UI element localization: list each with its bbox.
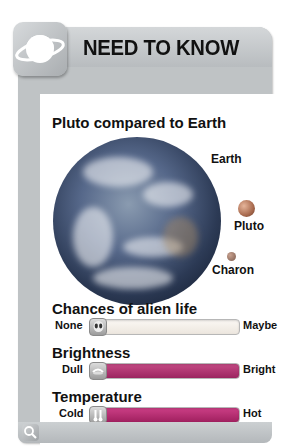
meter-max-label: Bright xyxy=(243,363,275,375)
content-panel: Pluto compared to Earth Earth Pluto Char… xyxy=(40,94,283,447)
charon-label: Charon xyxy=(212,263,254,277)
pluto-image xyxy=(238,200,255,217)
magnifier-icon[interactable] xyxy=(22,424,39,441)
meter-min-label: None xyxy=(55,319,83,331)
meter-max-label: Maybe xyxy=(243,319,277,331)
meter-min-label: Cold xyxy=(59,407,83,419)
earth-image xyxy=(53,137,221,305)
alien-icon xyxy=(89,318,107,336)
meter-title-temperature: Temperature xyxy=(52,388,142,405)
pluto-label: Pluto xyxy=(234,219,264,233)
meter-title-brightness: Brightness xyxy=(52,344,130,361)
earth-label: Earth xyxy=(211,152,242,166)
alien-life-meter xyxy=(89,319,240,335)
charon-image xyxy=(227,252,236,261)
planet-ringed-icon xyxy=(13,22,67,76)
footer-bar xyxy=(18,422,272,443)
meter-title-alien-life: Chances of alien life xyxy=(52,300,197,317)
need-to-know-card: NEED TO KNOW Pluto compared to Earth Ear… xyxy=(18,27,272,443)
dim-light-icon xyxy=(89,362,107,380)
comparison-title: Pluto compared to Earth xyxy=(52,114,226,131)
meter-max-label: Hot xyxy=(243,407,261,419)
temperature-meter xyxy=(89,407,240,423)
brightness-meter xyxy=(89,363,240,379)
header-title: NEED TO KNOW xyxy=(83,35,239,61)
meter-min-label: Dull xyxy=(62,363,83,375)
